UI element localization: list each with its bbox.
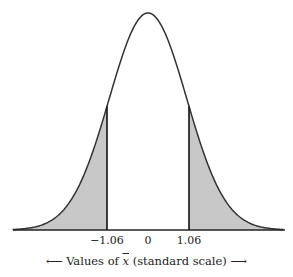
left-arrow-icon: ⟵ xyxy=(46,254,63,268)
tick-label-pos: 1.06 xyxy=(177,234,202,247)
right-tail-shade xyxy=(189,106,283,230)
tick-label-neg: −1.06 xyxy=(90,234,124,247)
x-axis-label-prefix: Values of xyxy=(66,254,122,268)
x-axis-label: ⟵ Values of x (standard scale) ⟶ xyxy=(0,254,293,268)
left-tail-shade xyxy=(13,106,107,230)
tick-label-zero: 0 xyxy=(145,234,152,247)
density-curve xyxy=(13,13,284,230)
x-axis-label-suffix: (standard scale) xyxy=(129,254,227,268)
right-arrow-icon: ⟶ xyxy=(231,254,248,268)
